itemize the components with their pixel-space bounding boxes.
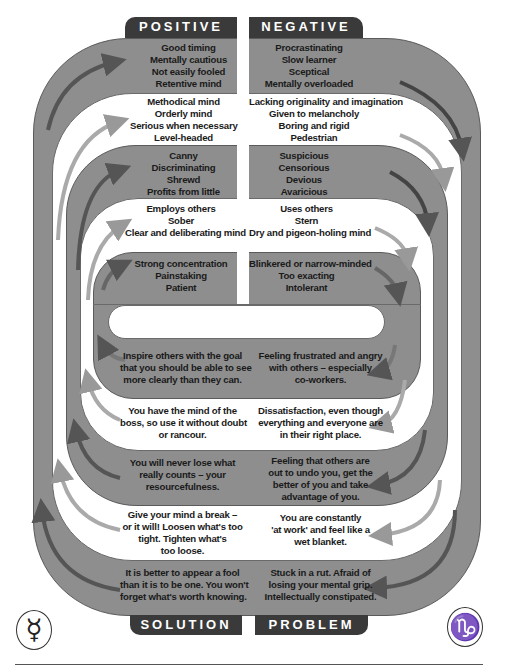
text-line: Profits from little: [130, 186, 237, 198]
text-line: more clearly than they can.: [120, 374, 245, 386]
text-line: Shrewd: [130, 174, 237, 186]
solution-band-4: You have the mind of the boss, so use it…: [120, 405, 245, 441]
text-line: Retentive mind: [140, 78, 237, 90]
text-line: or rancour.: [120, 429, 245, 441]
text-line: Avaricious: [249, 186, 359, 198]
text-line: Strong concentration: [125, 258, 237, 270]
text-line: Not easily fooled: [140, 66, 237, 78]
text-line: Good timing: [140, 42, 237, 54]
solution-band-5: Inspire others with the goal that you sh…: [120, 350, 245, 386]
text-line: losing your mental grip.: [258, 579, 383, 591]
text-line: better of you and take: [258, 479, 383, 491]
center-pill: [108, 305, 385, 339]
text-line: It is better to appear a fool: [120, 567, 245, 579]
capricorn-symbol-icon: ♑: [447, 607, 483, 647]
text-line: with others – especially: [258, 362, 383, 374]
text-line: Stern: [249, 215, 364, 227]
text-line: Serious when necessary: [130, 120, 237, 132]
text-line: You will never lose what: [120, 457, 245, 469]
text-line: 'at work' and feel like a: [258, 524, 383, 536]
text-line: Blinkered or narrow-minded: [249, 258, 364, 270]
text-line: Orderly mind: [130, 108, 237, 120]
positive-band-4: Employs others Sober Clear and deliberat…: [125, 203, 237, 239]
text-line: Intolerant: [249, 282, 364, 294]
bottom-rule: [15, 664, 483, 665]
text-line: Clear and deliberating mind: [125, 227, 237, 239]
tab-negative: NEGATIVE: [249, 17, 363, 38]
text-line: Mentally cautious: [140, 54, 237, 66]
text-line: Feeling frustrated and angry: [258, 350, 383, 362]
text-line: too loose.: [120, 545, 245, 557]
negative-band-2: Lacking originality and imagination Give…: [249, 96, 379, 144]
text-line: You are constantly: [258, 512, 383, 524]
text-line: You have the mind of the: [120, 405, 245, 417]
top-split-gap: [237, 15, 249, 305]
text-line: or it will! Loosen what's too: [120, 521, 245, 533]
solution-band-1: It is better to appear a fool than it is…: [120, 567, 245, 603]
text-line: Uses others: [249, 203, 364, 215]
text-line: Dry and pigeon-holing mind: [249, 227, 364, 239]
negative-band-4: Uses others Stern Dry and pigeon-holing …: [249, 203, 364, 239]
negative-band-5: Blinkered or narrow-minded Too exacting …: [249, 258, 364, 294]
text-line: forget what's worth knowing.: [120, 591, 245, 603]
problem-band-5: Feeling frustrated and angry with others…: [258, 350, 383, 386]
text-line: tight. Tighten what's: [120, 533, 245, 545]
text-line: Employs others: [125, 203, 237, 215]
text-line: Give your mind a break –: [120, 509, 245, 521]
text-line: Lacking originality and imagination: [249, 96, 379, 108]
positive-band-2: Methodical mind Orderly mind Serious whe…: [130, 96, 237, 144]
problem-band-4: Dissatisfaction, even though everything …: [258, 405, 383, 441]
text-line: Slow learner: [249, 54, 369, 66]
text-line: Intellectually constipated.: [258, 591, 383, 603]
text-line: Mentally overloaded: [249, 78, 369, 90]
text-line: everything and everyone are: [258, 417, 383, 429]
problem-band-1: Stuck in a rut. Afraid of losing your me…: [258, 567, 383, 603]
mercury-symbol-icon: ☿: [16, 610, 52, 650]
positive-band-5: Strong concentration Painstaking Patient: [125, 258, 237, 294]
text-line: Censorious: [249, 162, 359, 174]
text-line: Painstaking: [125, 270, 237, 282]
text-line: Too exacting: [249, 270, 364, 282]
text-line: Methodical mind: [130, 96, 237, 108]
text-line: resourcefulness.: [120, 481, 245, 493]
text-line: Dissatisfaction, even though: [258, 405, 383, 417]
negative-band-3: Suspicious Censorious Devious Avaricious: [249, 150, 359, 198]
text-line: Given to melancholy: [249, 108, 379, 120]
text-line: Boring and rigid: [249, 120, 379, 132]
text-line: than it is to be one. You won't: [120, 579, 245, 591]
text-line: Procrastinating: [249, 42, 369, 54]
text-line: Discriminating: [130, 162, 237, 174]
text-line: Inspire others with the goal: [120, 350, 245, 362]
text-line: wet blanket.: [258, 536, 383, 548]
text-line: Feeling that others are: [258, 455, 383, 467]
text-line: Level-headed: [130, 132, 237, 144]
text-line: in their right place.: [258, 429, 383, 441]
text-line: advantage of you.: [258, 491, 383, 503]
text-line: Patient: [125, 282, 237, 294]
text-line: boss, so use it without doubt: [120, 417, 245, 429]
text-line: Devious: [249, 174, 359, 186]
positive-band-3: Canny Discriminating Shrewd Profits from…: [130, 150, 237, 198]
text-line: co-workers.: [258, 374, 383, 386]
text-line: Suspicious: [249, 150, 359, 162]
tab-problem: PROBLEM: [255, 615, 368, 635]
text-line: out to undo you, get the: [258, 467, 383, 479]
text-line: Pedestrian: [249, 132, 379, 144]
solution-band-2: Give your mind a break – or it will! Loo…: [120, 509, 245, 557]
tab-solution: SOLUTION: [130, 615, 242, 635]
positive-band-1: Good timing Mentally cautious Not easily…: [140, 42, 237, 90]
text-line: Stuck in a rut. Afraid of: [258, 567, 383, 579]
problem-band-2: You are constantly 'at work' and feel li…: [258, 512, 383, 548]
tab-positive: POSITIVE: [125, 17, 237, 38]
negative-band-1: Procrastinating Slow learner Sceptical M…: [249, 42, 369, 90]
text-line: Canny: [130, 150, 237, 162]
text-line: that you should be able to see: [120, 362, 245, 374]
text-line: Sober: [125, 215, 237, 227]
problem-band-3: Feeling that others are out to undo you,…: [258, 455, 383, 503]
text-line: Sceptical: [249, 66, 369, 78]
solution-band-3: You will never lose what really counts –…: [120, 457, 245, 493]
text-line: really counts – your: [120, 469, 245, 481]
divider-line: [93, 304, 421, 305]
